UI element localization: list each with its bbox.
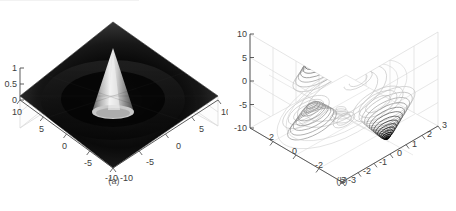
surface-mesh-a bbox=[20, 22, 218, 168]
x-tick-b-0: 0 bbox=[397, 148, 402, 158]
z-tick-b-0: 0 bbox=[242, 76, 247, 86]
z-tick-a-0.5: 0.5 bbox=[4, 79, 17, 89]
z-tick-labels-a: 1 0.5 0 bbox=[4, 63, 17, 105]
figure-container: 1 0.5 0 bbox=[0, 0, 456, 211]
y-tick-a-m5: -5 bbox=[84, 158, 92, 168]
x-tick-b-1: 1 bbox=[412, 139, 417, 149]
y-tick-a-5: 5 bbox=[39, 124, 44, 134]
z-tick-b-m10: -10 bbox=[234, 123, 247, 133]
x-tick-a-m5: -5 bbox=[146, 157, 154, 167]
panel-a: 1 0.5 0 bbox=[0, 0, 228, 211]
y-tick-b-2: 2 bbox=[269, 132, 274, 142]
y-tick-b-m2: -2 bbox=[315, 160, 323, 170]
y-tick-b-0: 0 bbox=[292, 146, 297, 156]
z-tick-b-10: 10 bbox=[237, 29, 247, 39]
z-tick-a-0: 0 bbox=[12, 95, 17, 105]
x-tick-a-5: 5 bbox=[199, 124, 204, 134]
z-tick-b-m5: -5 bbox=[239, 100, 247, 110]
caption-a: (a) bbox=[0, 176, 228, 186]
x-tick-b-2: 2 bbox=[427, 129, 432, 139]
y-tick-a-0: 0 bbox=[62, 141, 67, 151]
z-tick-b-5: 5 bbox=[242, 53, 247, 63]
z-tick-labels-b: 10 5 0 -5 -10 bbox=[234, 29, 247, 133]
panel-b: 10 5 0 -5 -10 2 0 -2 -3 bbox=[228, 0, 456, 211]
x-tick-b-m2: -2 bbox=[363, 166, 371, 176]
caption-b: (b) bbox=[228, 176, 456, 186]
y-tick-a-10: 10 bbox=[12, 107, 22, 117]
x-tick-b-m1: -1 bbox=[379, 157, 387, 167]
x-tick-b-3: 3 bbox=[442, 120, 447, 130]
x-tick-a-10: 10 bbox=[221, 107, 228, 117]
z-tick-a-1: 1 bbox=[12, 63, 17, 73]
x-tick-a-0: 0 bbox=[176, 141, 181, 151]
